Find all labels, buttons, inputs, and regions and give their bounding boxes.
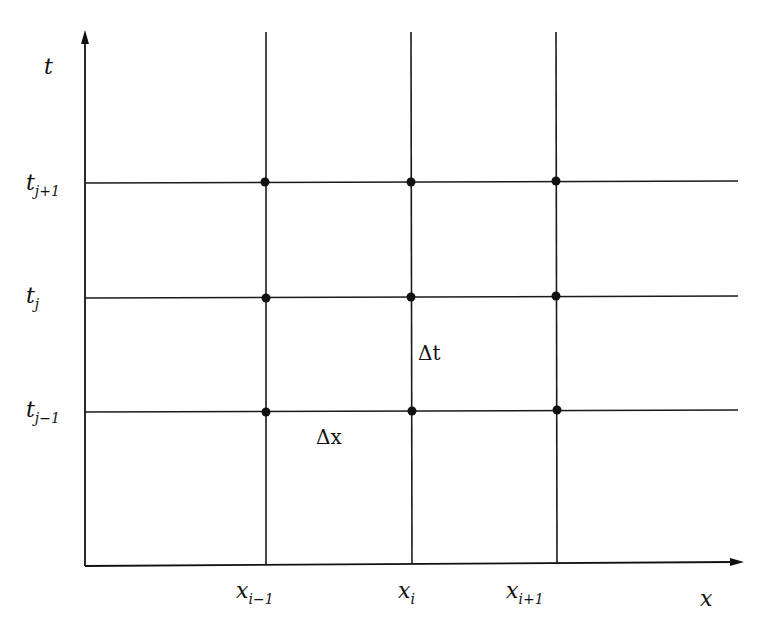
grid-node (552, 292, 561, 301)
x-tick-label-i-plus-1: xi+1 (506, 578, 544, 607)
grid-node (407, 178, 416, 187)
x-axis (85, 562, 734, 566)
t-axis-label: t (44, 54, 53, 79)
grid-diagram: t x tj+1 tj tj−1 xi−1 xi xi+1 Δt Δx (0, 0, 766, 630)
grid-node (261, 178, 270, 187)
x-axis-arrow-icon (730, 558, 744, 566)
t-tick-label-j: tj (26, 283, 40, 312)
grid-node (408, 407, 417, 416)
x-tick-label-i-minus-1: xi−1 (236, 578, 274, 607)
grid-node (407, 293, 416, 302)
delta-x-label: Δx (316, 425, 342, 449)
delta-t-label: Δt (418, 341, 440, 365)
x-tick-label-i: xi (398, 578, 415, 607)
x-axis-label: x (700, 586, 713, 611)
grid-node (552, 177, 561, 186)
t-axis-arrow-icon (81, 30, 89, 44)
grid-node (553, 406, 562, 415)
grid-node (262, 408, 271, 417)
t-tick-label-j-minus-1: tj−1 (26, 397, 60, 426)
t-tick-label-j-plus-1: tj+1 (26, 170, 60, 199)
grid-node (262, 294, 271, 303)
